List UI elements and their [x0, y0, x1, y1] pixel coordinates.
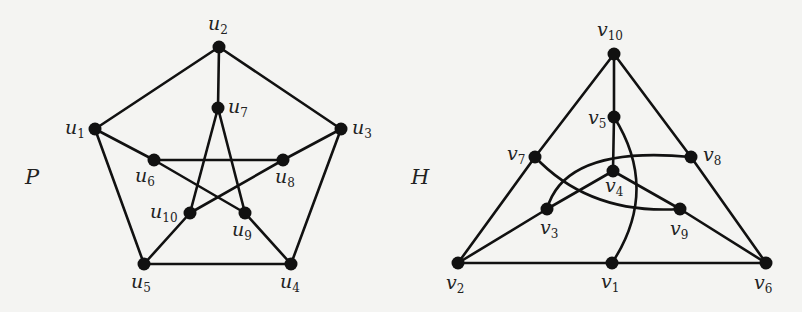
- edge-v9-v6: [680, 209, 766, 263]
- vertex-label-subscript: 7: [518, 153, 526, 167]
- vertex-label-subscript: 1: [77, 127, 85, 141]
- vertex-u1: [89, 123, 102, 136]
- graph-name-P: P: [25, 165, 39, 189]
- edge-v8-v6: [691, 157, 766, 263]
- vertex-label-base: u: [208, 12, 220, 34]
- edge-v5-v4: [613, 117, 614, 171]
- vertex-label-base: u: [232, 218, 244, 240]
- vertex-v10: [608, 48, 621, 61]
- vertex-label-subscript: 8: [287, 176, 295, 190]
- vertex-v2: [452, 257, 465, 270]
- vertex-label-base: v: [507, 142, 518, 164]
- edge-v7-v2: [458, 157, 535, 263]
- vertex-label-subscript: 6: [765, 282, 773, 296]
- graph-name-H: H: [411, 165, 429, 189]
- vertex-label-base: v: [597, 18, 608, 40]
- graph-P: [89, 41, 348, 271]
- vertex-label-v7: v7: [507, 144, 525, 166]
- vertex-v7: [529, 151, 542, 164]
- vertex-v9: [674, 203, 687, 216]
- vertex-label-base: u: [131, 270, 143, 292]
- vertex-label-base: v: [588, 106, 599, 128]
- vertex-label-u6: u6: [135, 166, 155, 188]
- vertex-label-base: u: [65, 116, 77, 138]
- vertex-label-subscript: 5: [599, 117, 607, 131]
- vertex-v6: [760, 257, 773, 270]
- vertex-u10: [184, 207, 197, 220]
- vertex-v5: [608, 111, 621, 124]
- vertex-label-base: v: [703, 143, 714, 165]
- edge-u2-u7: [218, 47, 219, 108]
- vertex-label-subscript: 4: [292, 281, 300, 295]
- vertex-u2: [213, 41, 226, 54]
- graph-H: [452, 48, 773, 270]
- vertex-label-v8: v8: [703, 145, 721, 167]
- vertex-label-u1: u1: [65, 118, 85, 140]
- graph-canvas: [0, 0, 802, 312]
- edge-u1-u2: [95, 47, 219, 129]
- vertex-label-v3: v3: [540, 218, 558, 240]
- vertex-label-subscript: 1: [612, 281, 620, 295]
- vertex-label-u3: u3: [352, 118, 372, 140]
- vertex-label-base: u: [280, 270, 292, 292]
- vertex-label-v6: v6: [754, 273, 772, 295]
- edge-u3-u4: [291, 129, 341, 264]
- vertex-u4: [285, 258, 298, 271]
- vertex-label-base: v: [605, 174, 616, 196]
- vertex-label-subscript: 9: [681, 228, 689, 242]
- edge-v10-v7: [535, 54, 614, 157]
- edge-v3-v2: [458, 209, 547, 263]
- vertex-label-subscript: 2: [457, 282, 465, 296]
- vertex-label-v1: v1: [601, 272, 619, 294]
- vertex-label-v2: v2: [446, 273, 464, 295]
- figure: u1u2u3u4u5u6u7u8u9u10Pv1v2v3v4v5v6v7v8v9…: [0, 0, 802, 312]
- vertex-label-u9: u9: [232, 220, 252, 242]
- vertex-label-u7: u7: [228, 97, 248, 119]
- vertex-label-base: v: [601, 270, 612, 292]
- vertex-label-u10: u10: [150, 202, 178, 224]
- edge-u4-u9: [245, 213, 291, 264]
- vertex-v3: [541, 203, 554, 216]
- vertex-label-subscript: 3: [364, 127, 372, 141]
- vertex-label-base: u: [150, 200, 162, 222]
- vertex-label-u4: u4: [280, 272, 300, 294]
- vertex-label-base: v: [670, 217, 681, 239]
- vertex-label-base: v: [446, 271, 457, 293]
- vertex-label-subscript: 6: [147, 175, 155, 189]
- vertex-label-base: u: [228, 95, 240, 117]
- vertex-label-u2: u2: [208, 14, 228, 36]
- edge-u8-u10: [190, 160, 283, 213]
- vertex-label-subscript: 8: [714, 154, 722, 168]
- edge-u5-u1: [95, 129, 144, 264]
- vertex-label-subscript: 2: [220, 23, 228, 37]
- vertex-label-base: v: [540, 216, 551, 238]
- vertex-label-subscript: 4: [616, 185, 624, 199]
- vertex-label-subscript: 7: [240, 106, 248, 120]
- vertex-label-subscript: 10: [608, 29, 623, 43]
- vertex-label-v5: v5: [588, 108, 606, 130]
- vertex-u6: [148, 154, 161, 167]
- vertex-label-u8: u8: [275, 167, 295, 189]
- vertex-label-base: v: [754, 271, 765, 293]
- vertex-label-v4: v4: [605, 176, 623, 198]
- vertex-u3: [335, 123, 348, 136]
- vertex-label-subscript: 9: [244, 229, 252, 243]
- vertex-label-u5: u5: [131, 272, 151, 294]
- vertex-u5: [138, 258, 151, 271]
- vertex-label-base: u: [352, 116, 364, 138]
- vertex-label-subscript: 5: [143, 281, 151, 295]
- vertex-label-base: u: [275, 165, 287, 187]
- vertex-label-base: u: [135, 164, 147, 186]
- vertex-label-subscript: 3: [551, 227, 559, 241]
- vertex-v1: [606, 257, 619, 270]
- vertex-v8: [685, 151, 698, 164]
- vertex-u7: [212, 102, 225, 115]
- vertex-label-v10: v10: [597, 20, 623, 42]
- vertex-label-v9: v9: [670, 219, 688, 241]
- vertex-label-subscript: 10: [162, 211, 177, 225]
